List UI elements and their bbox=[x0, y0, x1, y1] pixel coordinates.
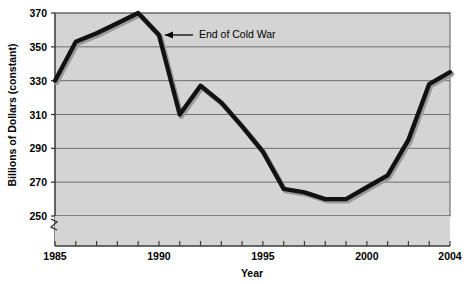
x-tick-label: 1990 bbox=[147, 250, 171, 262]
x-tick-label: 1985 bbox=[43, 250, 67, 262]
axis-gap-fill bbox=[55, 216, 450, 246]
x-tick-label: 1995 bbox=[251, 250, 275, 262]
x-tick-label: 2004 bbox=[438, 250, 462, 262]
chart-container: 250270290310330350370 198519901995200020… bbox=[0, 0, 467, 284]
y-tick-label: 290 bbox=[29, 142, 47, 154]
y-tick-label: 350 bbox=[29, 41, 47, 53]
x-tick-label: 2000 bbox=[355, 250, 379, 262]
y-tick-label: 330 bbox=[29, 75, 47, 87]
x-axis-title: Year bbox=[241, 267, 263, 279]
defense-spending-line-chart: 250270290310330350370 198519901995200020… bbox=[0, 0, 467, 284]
y-tick-label: 370 bbox=[29, 7, 47, 19]
y-axis-title: Billions of Dollars (constant) bbox=[6, 44, 18, 187]
y-tick-label: 310 bbox=[29, 109, 47, 121]
annotation-label: End of Cold War bbox=[199, 28, 276, 40]
y-tick-label: 250 bbox=[29, 210, 47, 222]
y-tick-label: 270 bbox=[29, 176, 47, 188]
